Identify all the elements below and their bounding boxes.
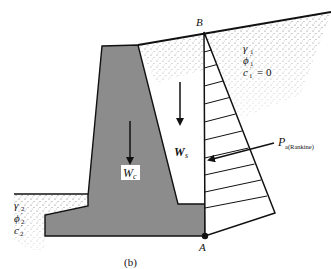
c1-symbol: c xyxy=(243,66,248,78)
ws-subscript: s xyxy=(185,151,188,160)
wc-subscript: c xyxy=(133,172,137,181)
phi2-symbol: ϕ xyxy=(14,212,20,224)
pa-subscript: a(Rankine) xyxy=(285,143,314,151)
c1-value: = 0 xyxy=(257,66,272,78)
gamma1-symbol: γ xyxy=(243,42,248,54)
gamma2-symbol: γ xyxy=(14,199,19,211)
phi1-symbol: ϕ xyxy=(243,54,249,66)
retaining-wall-diagram: A B W c W s P a(Rankine) γ 1 ϕ 1 ′ c 1 ′… xyxy=(0,0,331,269)
c1-subscript: 1 xyxy=(249,72,253,80)
label-a: A xyxy=(198,241,206,253)
c2-subscript: 2 xyxy=(20,230,24,238)
label-b: B xyxy=(196,16,203,28)
figure-caption: (b) xyxy=(124,256,137,269)
c2-symbol: c xyxy=(14,224,19,236)
point-a-marker xyxy=(202,233,208,239)
